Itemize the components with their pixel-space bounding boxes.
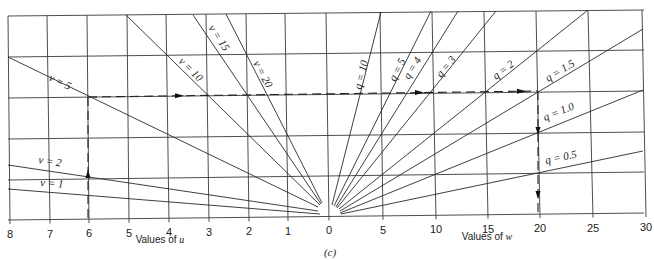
q-line: [340, 29, 643, 211]
q-line: [340, 90, 643, 213]
vertical-gridline: [432, 12, 436, 219]
tick-label: 30: [640, 221, 652, 233]
vertical-gridline: [380, 12, 383, 219]
tick-label: 25: [587, 222, 599, 234]
vertical-gridline: [8, 16, 10, 224]
tick-label: 1: [285, 225, 291, 237]
vertical-gridline: [484, 11, 488, 218]
v-line-label: v = 5: [47, 71, 74, 92]
tick-label: 0: [326, 224, 332, 236]
q-line-label: q = 3: [433, 53, 458, 79]
arrow-right-icon: [175, 93, 184, 98]
v-line: [8, 189, 320, 214]
tick-label: 7: [47, 228, 53, 240]
tick-label: 5: [126, 227, 132, 239]
arrow-up-icon: [86, 170, 91, 178]
q-line-family: q = 10q = 5q = 4q = 3q = 2q = 1.5q = 1.0…: [332, 10, 643, 214]
vertical-gridline: [642, 10, 646, 217]
v-line: [193, 15, 321, 204]
v-line-label: v = 20: [251, 58, 275, 90]
q-line-label: q = 10: [351, 59, 370, 91]
tick-label: 2: [246, 225, 252, 237]
w-axis-title: Values of w: [462, 231, 513, 242]
v-line-label: v = 2: [38, 153, 63, 169]
horizontal-gridline: [8, 50, 644, 57]
tick-label: 3: [206, 226, 212, 238]
v-line-label: v = 1: [40, 176, 64, 190]
q-line: [336, 11, 458, 207]
q-line: [341, 151, 643, 214]
arrow-right-icon: [415, 90, 424, 95]
figure-caption: (c): [324, 246, 337, 259]
vertical-gridline: [246, 14, 249, 222]
vertical-gridline: [326, 13, 329, 220]
q-line-label: q = 0.5: [544, 147, 578, 166]
vertical-gridline: [536, 11, 540, 218]
tick-label: 10: [430, 223, 442, 235]
horizontal-gridline: [8, 213, 644, 220]
arrow-right-icon: [517, 89, 526, 94]
q-line-label: q = 4: [401, 54, 424, 81]
q-line-label: q = 1.5: [543, 57, 577, 84]
vertical-gridline: [166, 15, 169, 223]
vertical-gridline: [285, 13, 288, 221]
horizontal-gridline: [8, 132, 644, 139]
vertical-gridline: [206, 14, 209, 222]
v-line: [226, 14, 322, 203]
tick-label: 6: [86, 227, 92, 239]
tick-label: 8: [7, 228, 13, 240]
nomogram-chart: v = 1v = 2v = 5v = 10v = 15v = 20 q = 10…: [0, 0, 654, 260]
axis-tick-labels: 87654321051015202530: [7, 221, 652, 240]
vertical-gridline: [588, 11, 593, 218]
tick-label: 5: [380, 224, 386, 236]
vertical-gridline: [127, 15, 129, 223]
u-axis-title: Values of u: [136, 234, 185, 245]
v-line-label: v = 15: [206, 22, 232, 53]
tick-label: 20: [534, 222, 546, 234]
v-line-family: v = 1v = 2v = 5v = 10v = 15v = 20: [8, 14, 322, 214]
